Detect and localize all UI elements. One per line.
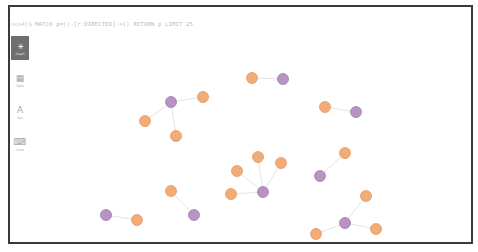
movie-node[interactable] <box>361 191 372 202</box>
movie-node[interactable] <box>171 131 182 142</box>
person-node[interactable] <box>315 171 326 182</box>
movie-node[interactable] <box>132 215 143 226</box>
movie-node[interactable] <box>166 186 177 197</box>
movie-node[interactable] <box>311 229 322 240</box>
person-node[interactable] <box>278 74 289 85</box>
person-node[interactable] <box>340 218 351 229</box>
graph-nodes <box>101 73 382 240</box>
movie-node[interactable] <box>226 189 237 200</box>
movie-node[interactable] <box>340 148 351 159</box>
graph-edges <box>106 78 376 234</box>
person-node[interactable] <box>189 210 200 221</box>
movie-node[interactable] <box>253 152 264 163</box>
person-node[interactable] <box>101 210 112 221</box>
movie-node[interactable] <box>247 73 258 84</box>
graph-canvas[interactable] <box>0 0 478 252</box>
movie-node[interactable] <box>276 158 287 169</box>
movie-node[interactable] <box>198 92 209 103</box>
movie-node[interactable] <box>140 116 151 127</box>
movie-node[interactable] <box>371 224 382 235</box>
person-node[interactable] <box>258 187 269 198</box>
person-node[interactable] <box>166 97 177 108</box>
person-node[interactable] <box>351 107 362 118</box>
movie-node[interactable] <box>320 102 331 113</box>
movie-node[interactable] <box>232 166 243 177</box>
